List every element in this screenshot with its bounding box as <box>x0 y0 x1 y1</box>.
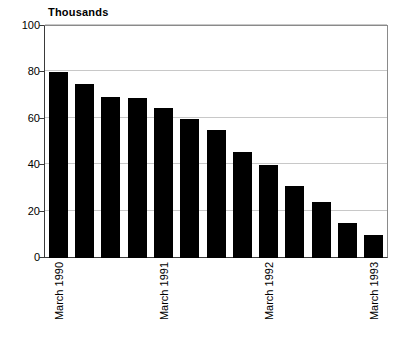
y-axis-tick-label: 100 <box>6 20 40 31</box>
x-axis-tick-label: March 1993 <box>368 262 379 320</box>
x-axis-tick: March 1991 <box>154 260 173 348</box>
bar <box>154 108 173 258</box>
bar <box>128 98 147 258</box>
bar <box>312 202 331 258</box>
y-axis-tick-label: 60 <box>6 113 40 124</box>
x-axis-tick-label: March 1991 <box>158 262 169 320</box>
bar <box>49 72 68 258</box>
x-axis-tick: March 1990 <box>49 260 68 348</box>
bar <box>207 130 226 258</box>
bar <box>338 223 357 258</box>
x-axis: March 1990March 1991March 1992March 1993 <box>45 260 387 348</box>
x-axis-tick-label: March 1992 <box>263 262 274 320</box>
bar <box>233 152 252 258</box>
bar <box>259 165 278 258</box>
y-axis-tick-label: 20 <box>6 206 40 217</box>
x-axis-tick-label: March 1990 <box>53 262 64 320</box>
bar <box>180 119 199 258</box>
bar <box>285 186 304 258</box>
bar-series <box>45 26 387 258</box>
y-axis-tick-label: 80 <box>6 66 40 77</box>
y-axis-tick-label: 40 <box>6 159 40 170</box>
bar <box>364 235 383 258</box>
y-axis: 020406080100 <box>0 25 40 258</box>
gridline <box>45 24 387 25</box>
x-axis-tick: March 1993 <box>364 260 383 348</box>
chart-title: Thousands <box>48 6 108 19</box>
bar <box>75 84 94 258</box>
bar-chart: Thousands 020406080100 March 1990March 1… <box>0 0 403 348</box>
y-axis-tick-label: 0 <box>6 252 40 263</box>
bar <box>101 97 120 258</box>
x-axis-tick: March 1992 <box>259 260 278 348</box>
